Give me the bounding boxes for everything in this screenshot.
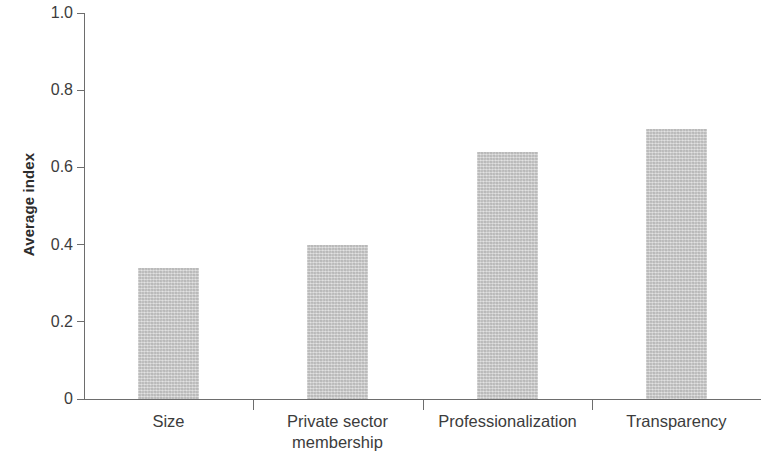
y-axis-tick (77, 90, 85, 91)
y-axis-tick (77, 244, 85, 245)
y-axis-tick-label: 0.4 (1, 237, 73, 253)
x-axis-label-line: Private sector (247, 411, 428, 432)
x-axis-label-line: Professionalization (417, 411, 598, 432)
x-axis-tick (423, 400, 424, 410)
x-axis-label-line: Transparency (586, 411, 767, 432)
x-axis-label-line: membership (247, 432, 428, 453)
x-axis-label-line: Size (78, 411, 259, 432)
y-axis-line (84, 13, 85, 400)
bar (646, 129, 707, 399)
x-axis-label: Professionalization (417, 411, 598, 432)
x-axis-tick (592, 400, 593, 410)
y-axis-tick-label: 0 (1, 391, 73, 407)
x-axis-label: Private sectormembership (247, 411, 428, 453)
y-axis-tick (77, 13, 85, 14)
bar (138, 268, 199, 399)
y-axis-tick (77, 321, 85, 322)
y-axis-tick-label: 0.6 (1, 159, 73, 175)
bar-chart: Average index 00.20.40.60.81.0 SizePriva… (0, 0, 767, 463)
y-axis-tick (77, 399, 85, 400)
y-axis-title: Average index (20, 125, 37, 285)
y-axis-tick-label: 0.8 (1, 82, 73, 98)
x-axis-tick (253, 400, 254, 410)
y-axis-tick (77, 167, 85, 168)
y-axis-tick-label: 0.2 (1, 314, 73, 330)
bar (477, 152, 538, 399)
bar (307, 245, 368, 399)
x-axis-label: Transparency (586, 411, 767, 432)
x-axis-label: Size (78, 411, 259, 432)
y-axis-tick-label: 1.0 (1, 5, 73, 21)
